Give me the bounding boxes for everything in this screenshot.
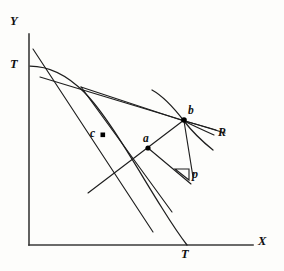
ray-r-label: R (218, 126, 226, 138)
point-b-dot (181, 117, 187, 123)
x-axis-label: X (258, 235, 266, 248)
transformation-curve-tt (30, 66, 187, 245)
point-c-label: c (90, 128, 95, 140)
figure-canvas: Y T X T a b c R p (0, 0, 284, 271)
price-line-through-a-to-b (88, 120, 184, 193)
price-line-a-to-slope-marker (148, 148, 191, 184)
point-a-dot (145, 145, 150, 150)
t-intercept-y-label: T (10, 58, 18, 71)
point-c-dot (101, 133, 106, 138)
point-b-label: b (188, 105, 194, 117)
slope-p-label: p (192, 168, 198, 180)
figure-drawing (0, 0, 284, 271)
ray-convergence-steep-down (81, 87, 172, 212)
t-intercept-x-label: T (181, 248, 189, 261)
slope-marker-p (175, 169, 189, 180)
budget-line-steep (33, 49, 153, 232)
slope-marker-triangle (175, 169, 189, 180)
y-axis-label: Y (10, 15, 18, 28)
point-a-label: a (143, 133, 149, 145)
price-line-convergence-to-b (81, 87, 184, 121)
